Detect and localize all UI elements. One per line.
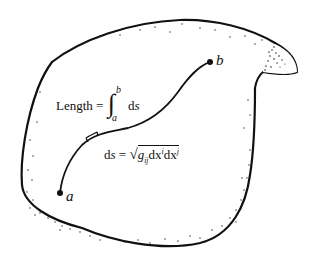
dx-j: dx (164, 147, 177, 162)
radicand: gijdxidxj (138, 145, 179, 162)
sqrt-sign: √ (129, 146, 137, 162)
point-a-dot (57, 190, 63, 196)
equals-sign: = (119, 147, 126, 162)
integral-upper-limit: b (116, 84, 121, 95)
point-a-label: a (66, 188, 74, 205)
point-b-dot (207, 59, 213, 65)
ds-var: s (111, 147, 116, 162)
dx-i: dx (149, 147, 162, 162)
curve-a-to-b (60, 62, 210, 193)
integrand-var: s (135, 98, 140, 113)
edge-stipple (26, 23, 262, 243)
integrand: ds (128, 98, 140, 114)
integral-lower-limit: a (112, 112, 117, 123)
surface-curl-shaded (263, 44, 297, 74)
sup-j: j (177, 147, 179, 156)
length-lhs: Length = (56, 98, 103, 114)
line-element-text: ds = √gijdxidxj (104, 146, 179, 165)
surface-drawing (0, 0, 313, 262)
point-b-label: b (216, 52, 224, 69)
surface-outline (22, 20, 275, 246)
diagram-figure: a b Length = ∫ b a ds ds = √gijdxidxj (0, 0, 313, 262)
